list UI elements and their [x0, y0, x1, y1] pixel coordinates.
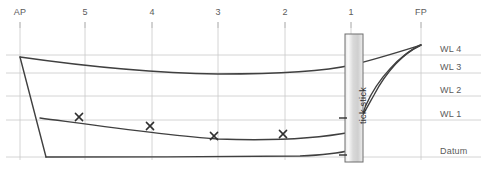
station-label-AP: AP: [14, 7, 26, 17]
tick-stick-label: tick stick: [358, 87, 368, 124]
station-top-ticks: [20, 22, 421, 28]
transom-line-path: [20, 57, 46, 157]
waterline-label-wl-2: WL 2: [440, 85, 461, 95]
waterline-label-datum: Datum: [440, 146, 468, 156]
waterline-label-wl-1: WL 1: [440, 109, 461, 119]
station-label-4: 4: [149, 7, 154, 17]
station-label-3: 3: [215, 7, 220, 17]
drawing-canvas: [0, 0, 487, 180]
offset-mark-1: [146, 122, 153, 129]
station-label-2: 2: [282, 7, 287, 17]
waterline-label-wl-3: WL 3: [440, 62, 461, 72]
waterline-label-wl-4: WL 4: [440, 44, 461, 54]
sheer-plan-drawing: AP54321FP WL 4WL 3WL 2WL 1Datum tick sti…: [0, 0, 487, 180]
offset-mark-0: [75, 113, 82, 120]
waterline-gridlines: [6, 55, 481, 157]
offset-mark-3: [279, 130, 286, 137]
station-label-FP: FP: [415, 7, 427, 17]
keel-line-path: [46, 150, 352, 157]
station-label-1: 1: [348, 7, 353, 17]
waterline-curve-path: [40, 118, 352, 140]
station-label-5: 5: [82, 7, 87, 17]
